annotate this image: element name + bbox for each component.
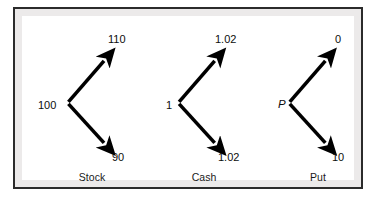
stock-root-value: 100	[38, 100, 56, 111]
tree-put-branches	[290, 61, 326, 143]
branch-up	[179, 61, 215, 102]
stock-up-value: 110	[108, 34, 126, 45]
tree-stock-branches	[68, 61, 104, 143]
cash-down-value: 1.02	[218, 152, 239, 163]
tree-cash-branches	[179, 61, 215, 143]
cash-up-value: 1.02	[215, 34, 236, 45]
figure-canvas: 100 110 90 Stock 1 1.02 1.02 Cash P 0 10…	[22, 16, 354, 180]
branch-up	[290, 61, 326, 102]
stock-caption: Stock	[79, 172, 105, 183]
put-root-value: P	[278, 99, 286, 111]
put-caption: Put	[310, 172, 326, 183]
tree-branches-svg	[22, 16, 354, 180]
cash-root-value: 1	[166, 100, 172, 111]
branch-down	[290, 104, 326, 143]
branch-down	[179, 104, 215, 143]
branch-up	[68, 61, 104, 102]
stock-down-value: 90	[112, 152, 124, 163]
cash-caption: Cash	[192, 172, 217, 183]
branch-down	[68, 104, 104, 143]
put-down-value: 10	[332, 152, 344, 163]
put-up-value: 0	[335, 34, 341, 45]
figure-frame: 100 110 90 Stock 1 1.02 1.02 Cash P 0 10…	[13, 7, 363, 189]
